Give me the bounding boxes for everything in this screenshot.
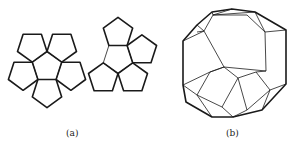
dodecahedron-solid xyxy=(183,9,286,117)
net-petal-face xyxy=(47,34,77,62)
net-petal-face xyxy=(127,35,157,63)
panel-b-label: (b) xyxy=(226,128,239,138)
solid-outline xyxy=(183,9,286,117)
net-petal-face xyxy=(8,62,38,90)
net-petal-face xyxy=(103,17,132,45)
net-petal-face xyxy=(56,62,86,90)
panel-a-label: (a) xyxy=(66,128,78,138)
net-petal-face xyxy=(89,63,119,91)
dodecahedron-net xyxy=(8,17,156,107)
net-petal-face xyxy=(18,34,48,62)
net-petal-face xyxy=(118,63,148,91)
dodecahedron-figure xyxy=(0,0,294,148)
net-petal-face xyxy=(32,80,61,108)
